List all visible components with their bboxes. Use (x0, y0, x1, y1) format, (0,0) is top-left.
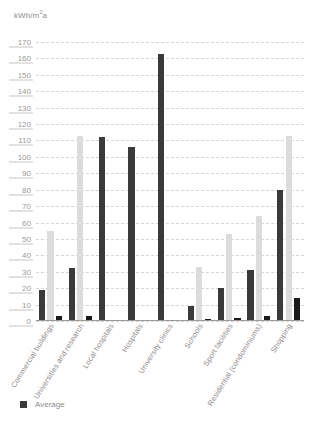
bar-average-0 (39, 290, 45, 321)
y-axis-tick-rule (9, 178, 33, 179)
y-axis-tick-rule (9, 145, 33, 146)
y-axis-tick-rule (9, 129, 33, 130)
y-axis-tick-rule (9, 211, 33, 212)
y-axis-tick-rule (9, 243, 33, 244)
bar-average-6 (218, 288, 224, 321)
y-axis-tick-rule (9, 79, 33, 80)
y-axis-tick-rule (9, 96, 33, 97)
bar-average-7 (247, 270, 253, 321)
legend-item-0[interactable]: Average (20, 400, 65, 409)
bar-maximum-5 (196, 267, 202, 321)
y-axis-tick-rule (9, 326, 33, 327)
y-axis-tick-label: 10 (5, 300, 31, 309)
y-axis-tick-rule (9, 63, 33, 64)
y-axis-tick-label: 80 (5, 185, 31, 194)
y-axis-tick-label: 50 (5, 234, 31, 243)
y-axis-tick-label: 160 (5, 54, 31, 63)
y-axis-tick-label: 90 (5, 169, 31, 178)
y-axis-tick-label: 60 (5, 218, 31, 227)
y-axis-unit-suffix: a (43, 11, 48, 20)
y-axis-tick-label: 70 (5, 202, 31, 211)
x-axis-line (36, 320, 304, 321)
bar-maximum-6 (226, 234, 232, 321)
y-axis-tick-rule (9, 293, 33, 294)
x-axis-label-6: Sport facilities (201, 322, 234, 368)
bar-average-5 (188, 306, 194, 321)
gridline (36, 124, 304, 125)
bar-maximum-7 (256, 216, 262, 321)
bar-average-4 (158, 54, 164, 322)
bar-maximum-8 (286, 136, 292, 321)
y-axis-tick-rule (9, 276, 33, 277)
y-axis-tick-rule (9, 194, 33, 195)
y-axis-tick-label: 110 (5, 136, 31, 145)
bar-maximum-0 (47, 231, 53, 321)
gridline (36, 91, 304, 92)
bar-average-3 (128, 147, 134, 321)
bar-average-2 (99, 137, 105, 321)
chart-container: kWh/m2a 01020304050607080901001101201301… (0, 0, 314, 434)
x-axis-label-2: Local hospitals (80, 322, 115, 370)
y-axis-unit-prefix: kWh/m (14, 11, 39, 20)
y-axis-unit-label: kWh/m2a (14, 9, 47, 20)
gridline (36, 108, 304, 109)
x-axis-label-3: Hospitals (121, 322, 145, 354)
bar-average-1 (69, 268, 75, 321)
y-axis-tick-rule (9, 161, 33, 162)
y-axis-tick-label: 100 (5, 152, 31, 161)
chart-legend: Average (20, 400, 65, 409)
bar-average-8 (277, 190, 283, 321)
y-axis-tick-rule (9, 309, 33, 310)
y-axis-tick-label: 120 (5, 120, 31, 129)
bar-minimum-8 (294, 298, 300, 321)
x-axis-label-7: Residential (condominiums) (206, 322, 264, 407)
y-axis-tick-label: 150 (5, 70, 31, 79)
y-axis-tick-label: 20 (5, 284, 31, 293)
x-axis-labels: Commercial buildingsUniversities and res… (36, 322, 304, 414)
y-axis-tick-label: 40 (5, 251, 31, 260)
y-axis-tick-rule (9, 47, 33, 48)
gridline (36, 42, 304, 43)
y-axis-tick-label: 30 (5, 267, 31, 276)
y-axis-tick-label: 130 (5, 103, 31, 112)
gridline (36, 58, 304, 59)
plot-area: 0102030405060708090100110120130140150160… (36, 42, 304, 321)
y-axis-tick-rule (9, 227, 33, 228)
legend-label: Average (35, 400, 65, 409)
x-axis-label-8: Shopping (269, 322, 294, 354)
y-axis-tick-rule (9, 260, 33, 261)
x-axis-label-5: Schools (182, 322, 204, 350)
y-axis-tick-rule (9, 112, 33, 113)
legend-swatch-icon (20, 401, 27, 408)
gridline (36, 75, 304, 76)
y-axis-tick-label: 0 (5, 317, 31, 326)
y-axis-tick-label: 170 (5, 38, 31, 47)
y-axis-tick-label: 140 (5, 87, 31, 96)
bar-maximum-1 (77, 136, 83, 321)
